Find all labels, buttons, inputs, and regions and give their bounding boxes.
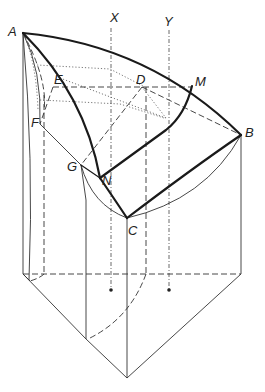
label-A: A	[7, 24, 17, 39]
label-Y: Y	[164, 14, 174, 29]
axis-lines	[109, 28, 171, 292]
label-B: B	[245, 125, 254, 140]
label-D: D	[136, 72, 145, 87]
label-E: E	[54, 72, 63, 87]
geometric-diagram: A B C D E F G M N X Y	[0, 0, 265, 392]
thick-edges	[23, 33, 241, 218]
label-C: C	[128, 223, 138, 238]
dashed-construction	[40, 87, 241, 165]
label-M: M	[195, 74, 206, 89]
label-G: G	[67, 159, 77, 174]
label-N: N	[102, 173, 112, 188]
label-F: F	[31, 115, 40, 130]
left-curves	[23, 33, 45, 280]
label-X: X	[109, 10, 120, 25]
